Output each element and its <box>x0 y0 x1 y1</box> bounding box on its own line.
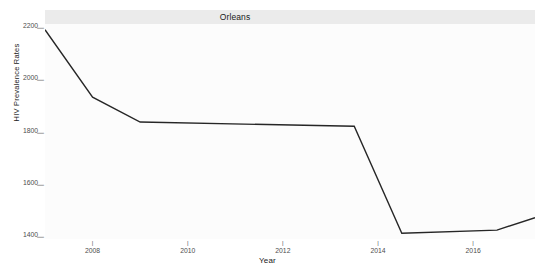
x-tickmark-icon: | <box>263 241 303 246</box>
x-tick-text: 2008 <box>85 247 100 254</box>
x-tickmark-icon: | <box>358 241 398 246</box>
chart-figure: Orleans HIV Prevalence Rates Year 2200 |… <box>0 0 535 273</box>
x-tickmark-icon: | <box>168 241 208 246</box>
x-axis-ticks: |2008|2010|2012|2014|2016 <box>0 0 535 273</box>
x-tickmark-icon: | <box>73 241 113 246</box>
x-tick-label: |2016 <box>453 241 493 256</box>
x-tick-label: |2010 <box>168 241 208 256</box>
x-tick-text: 2016 <box>466 247 481 254</box>
x-tick-label: |2008 <box>73 241 113 256</box>
x-tick-text: 2010 <box>180 247 195 254</box>
x-tickmark-icon: | <box>453 241 493 246</box>
x-tick-text: 2014 <box>370 247 385 254</box>
x-tick-label: |2014 <box>358 241 398 256</box>
x-tick-text: 2012 <box>275 247 290 254</box>
x-tick-label: |2012 <box>263 241 303 256</box>
